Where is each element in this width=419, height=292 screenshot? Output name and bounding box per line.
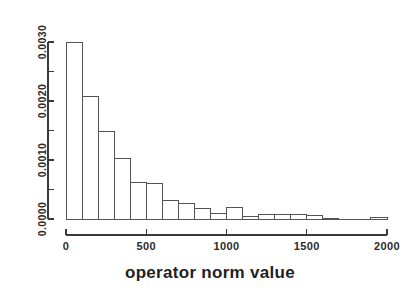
- histogram-bar: [130, 182, 146, 219]
- x-axis-tick-label: 0: [63, 240, 70, 252]
- histogram-plot-area: 0500100015002000 0.00000.00100.00200.003…: [0, 0, 419, 292]
- y-axis-tick-label: 0.0030: [36, 25, 48, 60]
- x-axis-tick-label: 500: [136, 240, 156, 252]
- histogram-figure: 0500100015002000 0.00000.00100.00200.003…: [0, 0, 419, 292]
- histogram-bar: [339, 219, 355, 220]
- histogram-bar: [323, 218, 339, 219]
- x-axis-tick-label: 2000: [374, 240, 400, 252]
- histogram-bar: [194, 209, 210, 219]
- x-axis-title: operator norm value: [125, 263, 295, 282]
- y-axis-group: 0.00000.00100.00200.0030: [36, 25, 54, 237]
- histogram-bar: [210, 213, 226, 219]
- histogram-bar: [243, 216, 259, 219]
- x-axis-tick-label: 1000: [213, 240, 239, 252]
- y-axis-tick-label: 0.0010: [36, 143, 48, 178]
- histogram-bar: [178, 203, 194, 219]
- histogram-bar: [259, 214, 275, 219]
- histogram-bar: [227, 208, 243, 219]
- y-axis-tick-label: 0.0020: [36, 84, 48, 119]
- y-axis-tick-label: 0.0000: [36, 202, 48, 237]
- histogram-bar: [291, 215, 307, 219]
- histogram-bar: [114, 159, 130, 219]
- histogram-bar: [355, 219, 371, 220]
- histogram-bar: [98, 131, 114, 219]
- histogram-bar: [162, 200, 178, 219]
- histogram-bar: [82, 96, 98, 219]
- x-axis-group: 0500100015002000: [63, 229, 400, 252]
- histogram-bars: [66, 42, 387, 220]
- histogram-bar: [307, 215, 323, 219]
- histogram-bar: [66, 42, 82, 219]
- x-axis-tick-label: 1500: [294, 240, 320, 252]
- histogram-bar: [146, 183, 162, 219]
- histogram-bar: [371, 218, 387, 219]
- histogram-bar: [275, 214, 291, 219]
